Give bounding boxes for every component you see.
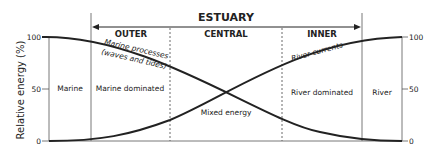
left-tick-50: 50: [31, 85, 41, 94]
diagram-title: ESTUARY: [198, 11, 255, 24]
river-currents-label: River currents: [290, 40, 344, 62]
right-tick-0: 0: [409, 137, 414, 146]
y-axis-label: Relative energy (%): [15, 40, 26, 139]
zone-inner-label: INNER: [307, 29, 337, 39]
region-mixed-energy-label: Mixed energy: [201, 108, 252, 117]
right-tick-50: 50: [409, 85, 419, 94]
zone-central-label: CENTRAL: [204, 29, 248, 39]
right-tick-100: 100: [409, 33, 424, 42]
region-marine-dominated-label: Marine dominated: [96, 84, 165, 93]
region-river-label: River: [372, 88, 392, 97]
region-marine-label: Marine: [57, 84, 83, 93]
left-tick-0: 0: [36, 137, 41, 146]
left-tick-100: 100: [27, 33, 42, 42]
estuary-energy-diagram: ESTUARY OUTER CENTRAL INNER 100 50 0 100…: [0, 0, 438, 152]
zone-outer-label: OUTER: [115, 29, 148, 39]
region-river-dominated-label: River dominated: [291, 88, 353, 97]
